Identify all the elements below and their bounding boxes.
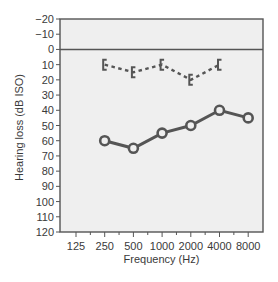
y-tick-label: 30 [42, 89, 54, 101]
circle-marker [244, 113, 253, 122]
audiogram-chart: 1252505001000200040008000 −20−1001020304… [0, 0, 278, 282]
x-tick-label: 8000 [236, 240, 260, 252]
y-tick-label: 100 [36, 196, 54, 208]
x-tick-label: 125 [67, 240, 85, 252]
y-tick-label: 80 [42, 165, 54, 177]
x-axis-title: Frequency (Hz) [124, 253, 200, 265]
circle-marker [129, 144, 138, 153]
y-tick-label: 0 [48, 43, 54, 55]
x-tick-label: 4000 [207, 240, 231, 252]
y-tick-label: 90 [42, 180, 54, 192]
y-tick-label: 70 [42, 150, 54, 162]
plot-area [60, 19, 263, 232]
x-tick-label: 1000 [150, 240, 174, 252]
y-tick-label: 110 [36, 211, 54, 223]
y-tick-label: 40 [42, 104, 54, 116]
x-axis-ticks: 1252505001000200040008000 [67, 232, 261, 252]
y-axis-title: Hearing loss (dB ISO) [13, 74, 25, 181]
x-tick-label: 250 [96, 240, 114, 252]
y-tick-label: 120 [36, 226, 54, 238]
circle-marker [158, 129, 167, 138]
circle-marker [186, 121, 195, 130]
circle-marker [215, 106, 224, 115]
x-tick-label: 2000 [179, 240, 203, 252]
y-axis-ticks: −20−100102030405060708090100110120 [35, 13, 60, 238]
y-tick-label: 10 [42, 59, 54, 71]
x-tick-label: 500 [124, 240, 142, 252]
circle-marker [100, 136, 109, 145]
y-tick-label: −20 [35, 13, 54, 25]
y-tick-label: 50 [42, 120, 54, 132]
y-tick-label: 20 [42, 74, 54, 86]
y-tick-label: −10 [35, 28, 54, 40]
y-tick-label: 60 [42, 135, 54, 147]
